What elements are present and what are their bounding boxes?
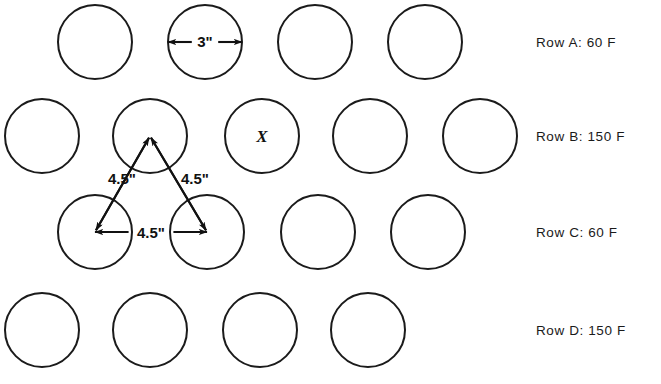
spacing-left-4p5in: 4.5" bbox=[96, 138, 149, 231]
circle-grid bbox=[5, 5, 517, 367]
spacing-horizontal-4p5in: 4.5" bbox=[95, 224, 207, 241]
circle-row-d-2 bbox=[113, 293, 187, 367]
marker-annotations: X bbox=[255, 127, 268, 146]
spacing-right-4p5in: 4.5" bbox=[151, 138, 209, 231]
row-label-a: Row A: 60 F bbox=[536, 35, 616, 50]
circle-row-a-4 bbox=[388, 5, 462, 79]
diameter-3in: 3" bbox=[168, 33, 242, 50]
spacing-left-4p5in-label: 4.5" bbox=[108, 170, 136, 187]
dimension-annotations: 3"4.5"4.5"4.5" bbox=[95, 33, 242, 241]
row-label-c: Row C: 60 F bbox=[536, 225, 618, 240]
circle-row-b-2 bbox=[113, 99, 187, 173]
row-label-d: Row D: 150 F bbox=[536, 323, 626, 338]
spacing-right-4p5in-label: 4.5" bbox=[181, 170, 209, 187]
circle-row-d-3 bbox=[223, 293, 297, 367]
x-marker: X bbox=[255, 127, 268, 146]
circle-row-b-1 bbox=[5, 99, 79, 173]
circle-row-b-4 bbox=[333, 99, 407, 173]
row-label-b: Row B: 150 F bbox=[536, 129, 625, 144]
circle-row-d-1 bbox=[5, 293, 79, 367]
circle-row-a-3 bbox=[278, 5, 352, 79]
circle-row-c-3 bbox=[281, 195, 355, 269]
circle-row-a-1 bbox=[58, 5, 132, 79]
circle-row-d-4 bbox=[331, 293, 405, 367]
spacing-horizontal-4p5in-label: 4.5" bbox=[137, 224, 165, 241]
sprinkler-layout-figure: 3"4.5"4.5"4.5" X Row A: 60 F Row B: 150 … bbox=[0, 0, 661, 384]
circle-row-c-4 bbox=[391, 195, 465, 269]
circle-row-b-5 bbox=[443, 99, 517, 173]
diameter-3in-label: 3" bbox=[197, 33, 212, 50]
